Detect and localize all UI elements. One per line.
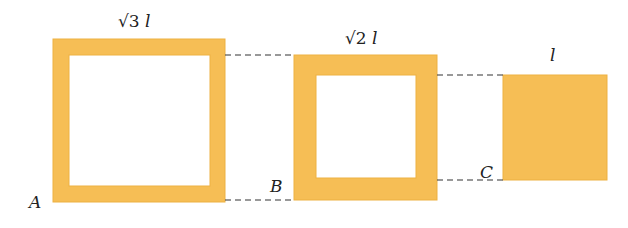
point-label-b: B xyxy=(270,178,283,195)
radical-sqrt2: √2 xyxy=(345,28,367,48)
variable-l: l xyxy=(145,11,150,31)
variable-l: l xyxy=(550,45,555,65)
point-label-c: C xyxy=(480,164,493,181)
side-label-square-c: l xyxy=(550,47,555,64)
point-label-a: A xyxy=(29,194,41,211)
radical-sqrt3: √3 xyxy=(118,11,140,31)
square-a-hole xyxy=(69,55,210,186)
variable-l: l xyxy=(372,28,377,48)
diagram-canvas xyxy=(0,0,628,228)
square-b-hole xyxy=(316,75,416,178)
side-label-square-b: √2 l xyxy=(345,30,378,47)
squares-layer xyxy=(53,39,607,202)
diagram-three-squares: √3 l √2 l l A B C xyxy=(0,0,628,228)
square-c-outer xyxy=(503,75,607,180)
side-label-square-a: √3 l xyxy=(118,13,151,30)
